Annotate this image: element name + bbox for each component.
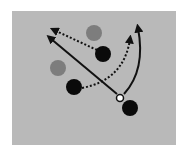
- offense-3-player: [122, 100, 138, 116]
- diagram-canvas: [0, 0, 186, 154]
- offense-2-player: [66, 79, 82, 95]
- ball: [117, 95, 124, 102]
- play-diagram: Play diagram: [0, 0, 186, 154]
- offense-1-player: [95, 46, 111, 62]
- defender-1-player: [86, 25, 102, 41]
- defender-2-player: [50, 60, 66, 76]
